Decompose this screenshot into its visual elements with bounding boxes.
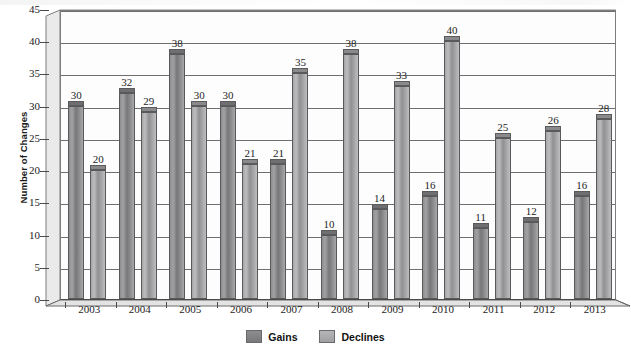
bar-face [321,235,337,299]
legend-item-gains[interactable]: Gains [246,330,297,343]
bar-declines-2009 [394,86,410,299]
legend-swatch-gains [246,330,262,343]
chart-legend: GainsDeclines [0,330,631,343]
bar-top-cap [169,49,185,54]
y-axis-tick-mark [40,203,49,204]
bar-face [422,196,438,299]
bar-top-cap [242,159,258,164]
bar-value-label: 29 [134,95,164,107]
x-axis-tick-label: 2006 [221,303,261,315]
y-axis-tick-label: 20 [16,164,40,176]
x-axis-tick-label: 2003 [69,303,109,315]
bar-top-cap [422,191,438,196]
y-axis-tick-label: 25 [16,132,40,144]
x-axis-tick-mark [116,302,117,308]
bar-value-label: 38 [336,37,366,49]
x-axis-tick-label: 2007 [271,303,311,315]
y-axis-tick-label: 0 [16,293,40,305]
bar-face [545,131,561,299]
bar-face [444,41,460,299]
y-axis-tick-mark [40,10,49,11]
bar-top-cap [473,223,489,228]
y-axis-tick-mark [40,139,49,140]
bar-value-label: 25 [488,121,518,133]
bar-gains-2012 [523,222,539,299]
bar-top-cap [343,49,359,54]
bar-value-label: 28 [589,102,619,114]
bar-declines-2008 [343,54,359,299]
x-axis-tick-label: 2004 [120,303,160,315]
bar-declines-2007 [292,73,308,299]
bar-gains-2011 [473,228,489,299]
x-axis-tick-mark [469,302,470,308]
bar-declines-2011 [495,138,511,299]
bar-gains-2013 [574,196,590,299]
y-axis-tick-mark [40,171,49,172]
y-axis-tick-label: 40 [16,35,40,47]
bar-value-label: 26 [538,114,568,126]
bar-value-label: 30 [213,89,243,101]
bar-top-cap [372,204,388,209]
bar-gains-2008 [321,235,337,299]
x-axis-tick-label: 2009 [373,303,413,315]
bar-value-label: 30 [184,89,214,101]
bar-value-label: 20 [83,153,113,165]
bar-top-cap [495,133,511,138]
bar-value-label: 33 [387,69,417,81]
bar-face [270,164,286,299]
bar-top-cap [596,114,612,119]
bar-top-cap [292,68,308,73]
y-axis-tick-mark [40,300,49,301]
bar-top-cap [523,217,539,222]
y-axis-tick-label: 45 [16,3,40,15]
legend-item-declines[interactable]: Declines [319,330,384,343]
legend-swatch-declines [319,330,335,343]
bar-declines-2006 [242,164,258,299]
bar-face [523,222,539,299]
bar-face [191,106,207,299]
bar-top-cap [191,101,207,106]
bar-face [574,196,590,299]
x-axis-tick-mark [368,302,369,308]
bar-face [141,112,157,299]
x-axis-tick-label: 2013 [575,303,615,315]
y-axis-tick-mark [40,42,49,43]
bar-top-cap [119,88,135,93]
bar-top-cap [545,126,561,131]
x-axis-tick-mark [267,302,268,308]
bar-value-label: 10 [314,218,344,230]
bar-value-label: 16 [567,179,597,191]
bar-face [292,73,308,299]
bar-top-cap [574,191,590,196]
x-axis-tick-mark [570,302,571,308]
x-axis-tick-label: 2005 [170,303,210,315]
bar-face [343,54,359,299]
bar-face [372,209,388,299]
x-axis-tick-mark [419,302,420,308]
bar-gains-2006 [220,106,236,299]
y-axis-tick-label: 35 [16,67,40,79]
y-axis-tick-mark [40,268,49,269]
bar-chart: Number of Changes 051015202530354045 302… [0,0,631,354]
bar-declines-2004 [141,112,157,299]
bar-declines-2010 [444,41,460,299]
bar-value-label: 11 [466,211,496,223]
y-axis-ticks: 051015202530354045 [14,0,40,354]
bar-value-label: 35 [285,56,315,68]
bar-face [169,54,185,299]
bar-gains-2003 [68,106,84,299]
bar-top-cap [90,165,106,170]
bar-value-label: 12 [516,205,546,217]
x-axis-tick-label: 2012 [524,303,564,315]
bar-face [220,106,236,299]
bar-top-cap [141,107,157,112]
bar-series-container: 3020322938303021213510381433164011251226… [61,11,615,299]
x-axis-tick-mark [217,302,218,308]
bar-top-cap [220,101,236,106]
bar-value-label: 21 [263,147,293,159]
legend-label: Gains [268,331,297,343]
y-axis-tick-label: 30 [16,100,40,112]
x-axis-tick-mark [520,302,521,308]
x-axis-tick-mark [65,302,66,308]
x-axis-tick-label: 2008 [322,303,362,315]
